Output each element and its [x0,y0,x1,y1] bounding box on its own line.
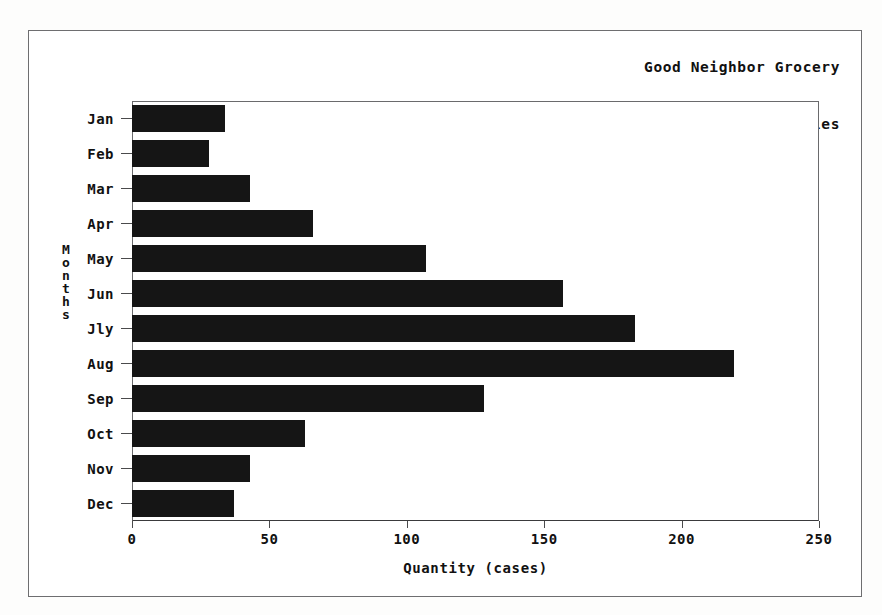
y-axis-tick-mark [121,118,132,119]
x-axis-tick-mark [132,521,133,528]
y-axis-tick-mark [121,363,132,364]
y-axis-title-char: s [58,308,74,321]
x-axis-ticks [132,521,819,531]
y-axis-label-text: May [87,251,114,267]
x-axis-tick-label-200: 200 [668,531,695,547]
bar-row [132,136,819,171]
bar-row [132,276,819,311]
y-axis-tick-mark [121,503,132,504]
y-axis-label-oct: Oct [87,416,132,451]
y-axis-label-text: Sep [87,391,114,407]
bar-sep [132,385,484,412]
bar-row [132,416,819,451]
y-axis-label-text: Jan [87,111,114,127]
x-axis-tick-mark [407,521,408,528]
bar-row [132,241,819,276]
y-axis-tick-mark [121,398,132,399]
y-axis-label-text: Dec [87,496,114,512]
y-axis-label-text: Oct [87,426,114,442]
y-axis-label-text: Aug [87,356,114,372]
y-axis-label-aug: Aug [87,346,132,381]
bar-feb [132,140,209,167]
x-axis-tick-label-150: 150 [531,531,558,547]
bar-row [132,171,819,206]
y-axis-label-nov: Nov [87,451,132,486]
y-axis-label-may: May [87,241,132,276]
bar-row [132,311,819,346]
bar-row [132,451,819,486]
y-axis-tick-mark [121,153,132,154]
x-axis-title: Quantity (cases) [132,560,819,576]
x-axis-tick-mark [682,521,683,528]
bar-nov [132,455,250,482]
x-axis-tick-label-50: 50 [260,531,278,547]
bar-dec [132,490,234,517]
chart-title-line-1: Good Neighbor Grocery [644,58,840,77]
y-axis-tick-mark [121,293,132,294]
y-axis-tick-mark [121,433,132,434]
y-axis-tick-mark [121,258,132,259]
x-axis-tick-mark [269,521,270,528]
bar-row [132,486,819,521]
y-axis-tick-mark [121,328,132,329]
x-axis-tick-label-250: 250 [806,531,833,547]
bar-may [132,245,426,272]
y-axis-label-sep: Sep [87,381,132,416]
bar-row [132,346,819,381]
y-axis-tick-mark [121,223,132,224]
y-axis-label-dec: Dec [87,486,132,521]
x-axis-tick-mark [544,521,545,528]
y-axis-label-text: Feb [87,146,114,162]
x-axis-tick-label-0: 0 [128,531,137,547]
x-axis-tick-mark [819,521,820,528]
bar-row [132,381,819,416]
chart-page: Good Neighbor Grocery Orange Juice Sales… [0,0,882,615]
y-axis-tick-mark [121,188,132,189]
y-axis-title: Months [58,243,74,321]
y-axis-label-text: Apr [87,216,114,232]
y-axis-label-jly: Jly [87,311,132,346]
bar-apr [132,210,313,237]
bar-row [132,101,819,136]
y-axis-label-text: Jun [87,286,114,302]
y-axis-label-text: Jly [87,321,114,337]
y-axis-tick-mark [121,468,132,469]
bar-mar [132,175,250,202]
bar-jly [132,315,635,342]
y-axis-label-apr: Apr [87,206,132,241]
bars-layer [132,101,819,521]
y-axis-label-jun: Jun [87,276,132,311]
bar-aug [132,350,734,377]
bar-row [132,206,819,241]
y-axis-label-mar: Mar [87,171,132,206]
y-axis-label-text: Nov [87,461,114,477]
bar-jan [132,105,225,132]
x-axis-tick-label-100: 100 [393,531,420,547]
y-axis-label-text: Mar [87,181,114,197]
bar-oct [132,420,305,447]
bar-jun [132,280,563,307]
y-axis-label-feb: Feb [87,136,132,171]
y-axis-label-jan: Jan [87,101,132,136]
x-axis-tick-labels: 050100150200250 [0,531,882,553]
